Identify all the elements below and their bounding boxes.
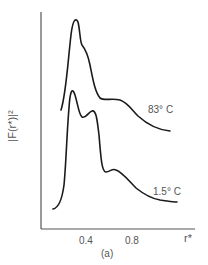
series-label-1-5c: 1.5° C <box>153 187 181 197</box>
y-axis-label: |F(r*)|² <box>6 96 18 156</box>
panel-label: (a) <box>101 249 113 259</box>
x-tick-0-8: 0.8 <box>125 236 139 246</box>
series-label-83c: 83° C <box>148 105 173 115</box>
x-tick-0-4: 0.4 <box>79 236 93 246</box>
chart-plot-area <box>0 0 208 265</box>
x-axis-label: r* <box>184 233 192 243</box>
